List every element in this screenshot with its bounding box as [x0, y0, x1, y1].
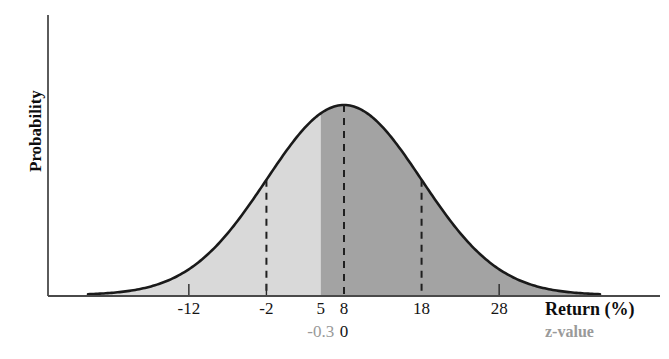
x-tick-label--12: -12 — [164, 299, 214, 319]
x-tick-label--2: -2 — [241, 299, 291, 319]
chart-canvas: Probability -12-2581828 -0.30 Return (%)… — [0, 0, 669, 359]
x-tick-label-18: 18 — [397, 299, 447, 319]
z-axis-title: z-value — [545, 323, 594, 341]
x-tick-label-8: 8 — [319, 299, 369, 319]
z-tick-label-8: 0 — [319, 322, 369, 342]
x-axis-title: Return (%) — [545, 299, 634, 320]
x-tick-label-28: 28 — [474, 299, 524, 319]
y-axis-title: Probability — [26, 90, 46, 172]
